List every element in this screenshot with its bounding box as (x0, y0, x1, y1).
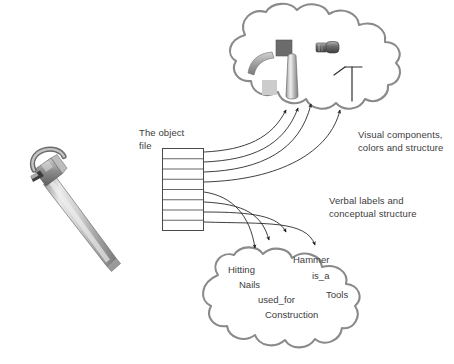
diagram-artwork (0, 0, 454, 364)
arrows-to-visual-cloud (204, 104, 340, 182)
verbal-labels-caption: Verbal labels and conceptual structure (329, 195, 417, 220)
diagram-canvas: The object file Visual components, color… (0, 0, 454, 364)
concept-is-a: is_a (312, 270, 329, 281)
object-file-label: The object file (139, 127, 184, 152)
object-file-grid (163, 149, 204, 231)
concept-used-for: used_for (258, 294, 295, 305)
visual-components-caption: Visual components, colors and structure (358, 129, 443, 154)
visual-components-cloud (230, 4, 400, 109)
dark-gray-square (276, 40, 292, 56)
hammer-head-small (316, 42, 339, 54)
light-gray-square (262, 80, 277, 95)
handle-cylinder (286, 54, 298, 99)
concept-hammer: Hammer (293, 254, 329, 265)
concept-construction: Construction (265, 309, 318, 320)
arrows-to-conceptual-cloud (204, 192, 315, 248)
concept-tools: Tools (326, 289, 348, 300)
arrow-concept-4 (204, 222, 315, 245)
arrow-visual-1 (204, 110, 286, 152)
concept-nails: Nails (239, 279, 260, 290)
arrow-visual-4 (204, 110, 340, 182)
arrow-concept-1 (204, 192, 255, 248)
concept-hitting: Hitting (228, 264, 255, 275)
arrow-visual-2 (204, 108, 298, 162)
claw-hammer-photograph (12, 149, 130, 271)
